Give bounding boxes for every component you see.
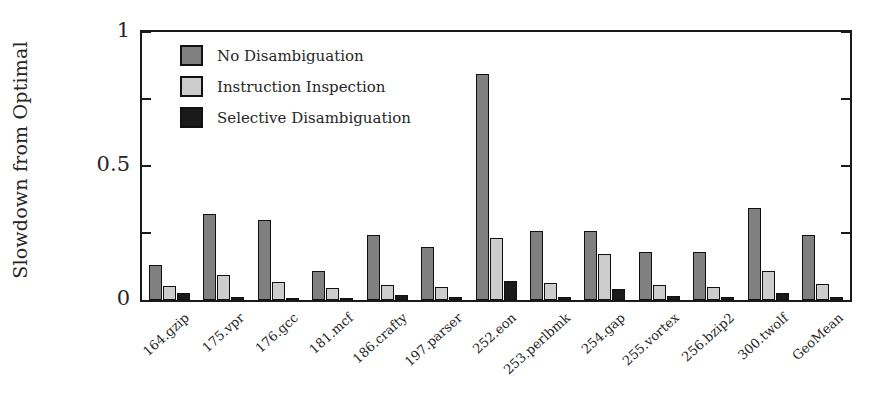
- x-axis-tick-label-text: 181.mcf: [306, 310, 356, 357]
- legend-swatch-selective-disambiguation: [180, 107, 203, 128]
- bar: [476, 74, 489, 300]
- y-axis-tick-mark: [142, 232, 151, 234]
- y-axis-tick-label: 0.5: [68, 154, 130, 175]
- x-axis-tick-label-text: 256.bzip2: [679, 310, 737, 365]
- x-axis-tick-label-text: 252.eon: [470, 310, 519, 357]
- bar: [395, 295, 408, 300]
- plot-area: No Disambiguation Instruction Inspection…: [140, 30, 852, 302]
- bar: [558, 297, 571, 300]
- bar: [286, 298, 299, 300]
- y-axis-title-container: Slowdown from Optimal: [0, 0, 40, 320]
- y-axis-tick-label: 1: [68, 20, 130, 41]
- y-axis-tick-mark: [142, 165, 151, 167]
- bar: [177, 293, 190, 300]
- bar: [667, 296, 680, 300]
- bar: [231, 297, 244, 300]
- bar: [340, 298, 353, 300]
- bar: [830, 297, 843, 300]
- bar: [449, 297, 462, 300]
- bar: [149, 265, 162, 300]
- legend-label-selective-disambiguation: Selective Disambiguation: [217, 109, 411, 127]
- legend-swatch-no-disambiguation: [180, 45, 203, 66]
- legend-label-instruction-inspection: Instruction Inspection: [217, 78, 386, 96]
- plot-inner-surface: No Disambiguation Instruction Inspection…: [142, 32, 850, 300]
- y-axis-tick-label: 0: [68, 288, 130, 309]
- x-axis-tick-label-text: 176.gcc: [253, 310, 302, 356]
- bar: [721, 297, 734, 300]
- y-axis-tick-mark: [841, 165, 850, 167]
- x-axis-tick-label-text: 175.vpr: [199, 310, 247, 355]
- y-axis-tick-mark: [841, 98, 850, 100]
- legend-item: No Disambiguation: [180, 40, 411, 71]
- x-axis-tick-label-text: 254.gap: [578, 310, 628, 357]
- bar-group: [149, 265, 190, 300]
- legend-label-no-disambiguation: No Disambiguation: [217, 47, 364, 65]
- bar: [776, 293, 789, 300]
- legend-item: Selective Disambiguation: [180, 102, 411, 133]
- y-axis-tick-mark: [841, 31, 850, 33]
- bar: [612, 289, 625, 300]
- x-axis-tick-label-text: 300.twolf: [735, 310, 791, 363]
- y-axis-tick-mark: [142, 98, 151, 100]
- x-axis-tick-label-text: GeoMean: [789, 310, 846, 363]
- bar: [163, 286, 176, 300]
- bar-chart-figure: Slowdown from Optimal 00.51 No Disambigu…: [0, 0, 893, 412]
- x-axis-tick-label-text: 164.gzip: [140, 310, 192, 359]
- legend: No Disambiguation Instruction Inspection…: [180, 40, 411, 133]
- y-axis-title: Slowdown from Optimal: [9, 41, 31, 279]
- y-axis-tick-mark: [841, 232, 850, 234]
- legend-swatch-instruction-inspection: [180, 76, 203, 97]
- legend-item: Instruction Inspection: [180, 71, 411, 102]
- y-axis-tick-mark: [142, 31, 151, 33]
